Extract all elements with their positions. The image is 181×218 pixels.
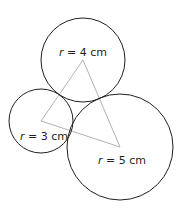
- label-radius-5: r = 5 cm: [98, 154, 146, 167]
- tangent-circles-diagram: r = 4 cm r = 3 cm r = 5 cm: [0, 0, 181, 218]
- label-radius-3: r = 3 cm: [20, 130, 68, 143]
- label-radius-4: r = 4 cm: [59, 46, 107, 59]
